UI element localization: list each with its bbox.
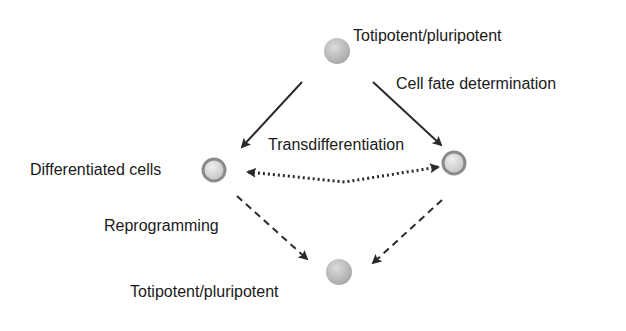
node-left-cell — [203, 159, 225, 181]
node-bottom-cell — [326, 259, 352, 285]
label-bottom-totipotent: Totipotent/pluripotent — [130, 284, 279, 300]
node-right-cell — [443, 152, 465, 174]
arrow-transdifferentiation — [248, 167, 438, 182]
label-top-totipotent: Totipotent/pluripotent — [353, 28, 502, 44]
arrow-left-to-bottom — [237, 196, 307, 259]
label-differentiated-cells: Differentiated cells — [30, 162, 161, 178]
label-transdifferentiation: Transdifferentiation — [268, 137, 404, 153]
label-reprogramming: Reprogramming — [104, 218, 219, 234]
node-top-cell — [324, 38, 350, 64]
label-cell-fate-determination: Cell fate determination — [396, 76, 556, 92]
arrow-right-to-bottom — [373, 200, 442, 263]
